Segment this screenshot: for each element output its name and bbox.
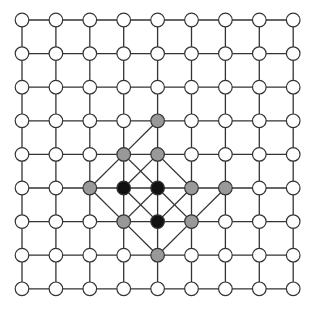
- node-gray: [219, 181, 233, 195]
- node-empty: [49, 282, 63, 296]
- node-empty: [15, 47, 29, 61]
- node-empty: [15, 181, 29, 195]
- node-empty: [151, 47, 165, 61]
- node-empty: [117, 248, 131, 262]
- node-empty: [252, 13, 266, 27]
- node-empty: [83, 13, 97, 27]
- node-empty: [49, 215, 63, 229]
- grid-nodes: [15, 13, 300, 295]
- node-empty: [117, 80, 131, 94]
- node-empty: [219, 80, 233, 94]
- node-empty: [219, 215, 233, 229]
- node-empty: [49, 148, 63, 162]
- node-empty: [286, 181, 300, 195]
- node-empty: [49, 114, 63, 128]
- node-empty: [185, 114, 199, 128]
- lattice-diagram: [0, 0, 313, 311]
- node-empty: [117, 282, 131, 296]
- node-empty: [252, 282, 266, 296]
- node-empty: [49, 13, 63, 27]
- node-empty: [185, 282, 199, 296]
- node-empty: [219, 13, 233, 27]
- node-gray: [83, 181, 97, 195]
- node-empty: [185, 80, 199, 94]
- node-empty: [185, 13, 199, 27]
- node-gray: [151, 114, 165, 128]
- node-empty: [286, 13, 300, 27]
- node-empty: [83, 248, 97, 262]
- node-empty: [15, 80, 29, 94]
- node-gray: [185, 215, 199, 229]
- node-empty: [151, 13, 165, 27]
- node-empty: [49, 181, 63, 195]
- node-empty: [117, 114, 131, 128]
- node-empty: [185, 248, 199, 262]
- node-gray: [117, 215, 131, 229]
- node-empty: [151, 80, 165, 94]
- node-empty: [286, 114, 300, 128]
- node-empty: [83, 80, 97, 94]
- node-empty: [185, 47, 199, 61]
- node-empty: [117, 13, 131, 27]
- node-empty: [49, 248, 63, 262]
- node-empty: [83, 47, 97, 61]
- node-empty: [286, 215, 300, 229]
- node-empty: [219, 282, 233, 296]
- node-gray: [151, 248, 165, 262]
- node-empty: [252, 148, 266, 162]
- node-gray: [117, 148, 131, 162]
- node-empty: [219, 47, 233, 61]
- node-black: [151, 181, 165, 195]
- node-empty: [15, 282, 29, 296]
- node-gray: [185, 181, 199, 195]
- node-empty: [83, 114, 97, 128]
- node-empty: [252, 114, 266, 128]
- node-empty: [15, 13, 29, 27]
- node-empty: [219, 248, 233, 262]
- node-empty: [15, 148, 29, 162]
- node-empty: [15, 215, 29, 229]
- node-empty: [286, 80, 300, 94]
- node-empty: [252, 80, 266, 94]
- node-empty: [252, 248, 266, 262]
- node-empty: [83, 215, 97, 229]
- node-empty: [49, 80, 63, 94]
- node-empty: [83, 148, 97, 162]
- node-black: [151, 215, 165, 229]
- node-empty: [286, 47, 300, 61]
- node-empty: [286, 248, 300, 262]
- node-empty: [252, 181, 266, 195]
- node-empty: [286, 282, 300, 296]
- node-empty: [49, 47, 63, 61]
- node-empty: [15, 114, 29, 128]
- node-empty: [15, 248, 29, 262]
- node-empty: [185, 148, 199, 162]
- node-gray: [151, 148, 165, 162]
- node-empty: [117, 47, 131, 61]
- node-empty: [252, 215, 266, 229]
- node-empty: [83, 282, 97, 296]
- node-black: [117, 181, 131, 195]
- node-empty: [151, 282, 165, 296]
- node-empty: [219, 148, 233, 162]
- node-empty: [252, 47, 266, 61]
- node-empty: [219, 114, 233, 128]
- node-empty: [286, 148, 300, 162]
